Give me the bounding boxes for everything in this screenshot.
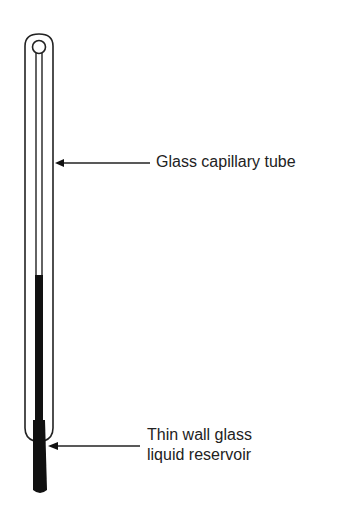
reservoir-label-line2: liquid reservoir bbox=[147, 445, 252, 465]
capillary-tube-label: Glass capillary tube bbox=[156, 152, 296, 172]
capillary-arrowhead-icon bbox=[55, 159, 64, 167]
liquid-column bbox=[35, 275, 43, 425]
reservoir-label: Thin wall glass liquid reservoir bbox=[147, 425, 252, 465]
reservoir-arrowhead-icon bbox=[48, 442, 58, 450]
expansion-bulb bbox=[33, 41, 46, 54]
liquid-reservoir bbox=[33, 420, 47, 493]
reservoir-label-line1: Thin wall glass bbox=[147, 425, 252, 445]
